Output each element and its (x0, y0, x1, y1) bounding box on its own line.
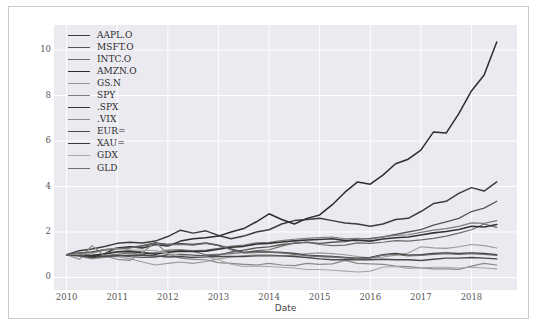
legend-item-amzno[interactable]: AMZN.O (68, 65, 137, 77)
chart-legend: AAPL.OMSFT.OINTC.OAMZN.OGS.NSPY.SPX.VIXE… (64, 27, 141, 176)
legend-item-label: GDX (97, 151, 118, 160)
legend-item-label: .VIX (97, 115, 116, 124)
legend-item-label: SPY (97, 91, 115, 100)
legend-item-aaplo[interactable]: AAPL.O (68, 29, 137, 41)
legend-item-label: GS.N (97, 79, 121, 88)
legend-item-gld[interactable]: GLD (68, 162, 137, 174)
legend-item-gsn[interactable]: GS.N (68, 77, 137, 89)
legend-item-gdx[interactable]: GDX (68, 150, 137, 162)
legend-item-intco[interactable]: INTC.O (68, 53, 137, 65)
chart-figure: 0246810 AAPL.OMSFT.OINTC.OAMZN.OGS.NSPY.… (8, 6, 529, 319)
y-tick-label: 6 (29, 136, 51, 145)
legend-item-spx[interactable]: .SPX (68, 102, 137, 114)
y-tick-label: 10 (29, 45, 51, 54)
legend-item-label: AAPL.O (97, 31, 132, 40)
legend-line-swatch (68, 95, 90, 96)
legend-line-swatch (68, 35, 90, 36)
legend-line-swatch (68, 168, 90, 169)
legend-item-label: GLD (97, 164, 117, 173)
x-tick-label: 2015 (309, 292, 331, 302)
x-tick-label: 2013 (208, 292, 230, 302)
x-tick-label: 2014 (258, 292, 280, 302)
y-tick-label: 8 (29, 91, 51, 100)
legend-line-swatch (68, 83, 90, 84)
x-tick-label: 2016 (359, 292, 381, 302)
legend-line-swatch (68, 47, 90, 48)
legend-item-label: MSFT.O (97, 43, 134, 52)
legend-item-xau[interactable]: XAU= (68, 138, 137, 150)
legend-line-swatch (68, 131, 90, 132)
x-axis-label: Date (54, 303, 517, 313)
legend-item-label: .SPX (97, 103, 119, 112)
y-tick-label: 4 (29, 182, 51, 191)
x-tick-label: 2017 (410, 292, 432, 302)
legend-line-swatch (68, 71, 90, 72)
legend-line-swatch (68, 155, 90, 156)
y-tick-label: 0 (29, 272, 51, 281)
y-tick-label: 2 (29, 227, 51, 236)
x-tick-label: 2010 (56, 292, 78, 302)
legend-item-label: AMZN.O (97, 67, 137, 76)
legend-item-msfto[interactable]: MSFT.O (68, 41, 137, 53)
series-line-msfto (67, 201, 497, 257)
x-tick-label: 2018 (461, 292, 483, 302)
legend-item-spy[interactable]: SPY (68, 89, 137, 101)
legend-item-label: EUR= (97, 127, 125, 136)
legend-item-label: XAU= (97, 139, 125, 148)
series-line-aaplo (67, 182, 497, 255)
y-axis-ticks: 0246810 (25, 25, 51, 290)
legend-item-eur[interactable]: EUR= (68, 126, 137, 138)
legend-item-vix[interactable]: .VIX (68, 114, 137, 126)
legend-line-swatch (68, 107, 90, 108)
legend-line-swatch (68, 59, 90, 60)
x-tick-label: 2012 (157, 292, 179, 302)
legend-line-swatch (68, 119, 90, 120)
x-tick-label: 2011 (106, 292, 128, 302)
legend-item-label: INTC.O (97, 55, 131, 64)
legend-line-swatch (68, 143, 90, 144)
